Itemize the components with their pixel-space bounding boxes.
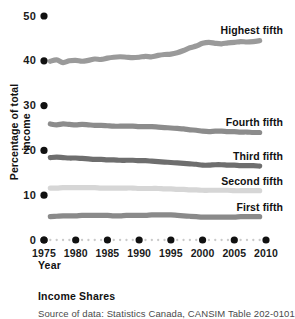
- x-axis-tick-label: 2005: [217, 248, 251, 259]
- chart-caption: Income Shares: [38, 290, 115, 302]
- series-line-second-fifth: [50, 188, 259, 191]
- y-axis-tick-label: 40: [14, 55, 36, 66]
- x-axis-tick-label: 2010: [249, 248, 283, 259]
- x-axis-title: Year: [38, 259, 61, 271]
- series-label-highest-fifth: Highest fifth: [0, 24, 283, 36]
- x-axis-tick-label: 1995: [154, 248, 188, 259]
- series-label-fourth-fifth: Fourth fifth: [0, 116, 283, 128]
- series-line-highest-fifth: [50, 41, 259, 63]
- series-label-first-fifth: First fifth: [0, 201, 283, 213]
- x-axis-tick-label: 1975: [27, 248, 61, 259]
- x-axis-tick-label: 1985: [90, 248, 124, 259]
- series-label-second-fifth: Second fifth: [0, 175, 283, 187]
- chart-source-note: Source of data: Statistics Canada, CANSI…: [38, 308, 295, 319]
- x-axis-tick-label: 2000: [186, 248, 220, 259]
- series-line-first-fifth: [50, 215, 259, 217]
- x-axis-tick-dots: [40, 236, 269, 243]
- y-axis-tick-label: 0: [14, 235, 36, 246]
- series-label-third-fifth: Third fifth: [0, 150, 283, 162]
- y-axis-tick-label: 50: [14, 11, 36, 22]
- x-axis-tick-label: 1990: [122, 248, 156, 259]
- x-axis-tick-label: 1980: [59, 248, 93, 259]
